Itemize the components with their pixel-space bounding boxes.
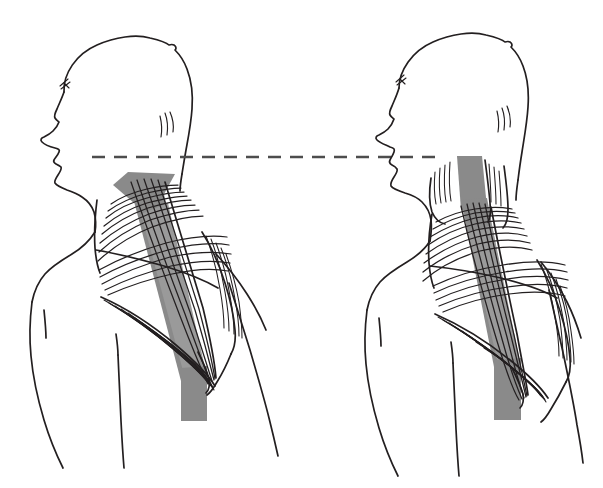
anatomical-illustration — [0, 0, 603, 488]
illustration-canvas — [0, 0, 603, 488]
